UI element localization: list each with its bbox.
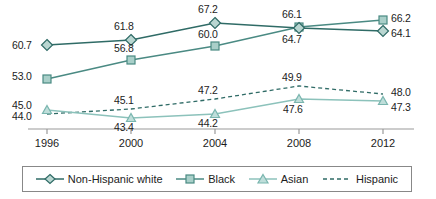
legend-dashed-line-icon [322,173,352,185]
legend-item-black[interactable]: Black [176,173,235,185]
data-label-asian-2008: 47.6 [283,103,303,115]
data-label-hispanic-2008: 49.9 [282,71,302,83]
legend-square-icon [176,173,204,185]
data-label-nhw-2012: 64.1 [391,27,411,39]
data-label-hispanic-2012: 48.0 [391,86,411,98]
legend-diamond-icon [36,173,64,185]
x-tick-label-2000: 2000 [119,137,143,149]
data-label-hispanic-1996: 44.0 [12,110,32,122]
data-label-black-2008: 64.7 [282,33,302,45]
data-label-nhw-2000: 61.8 [114,20,134,32]
x-tick-label-2008: 2008 [287,137,311,149]
legend-triangle-icon [249,173,277,185]
data-label-asian-2000: 43.4 [114,121,134,133]
data-label-black-2000: 56.8 [114,42,134,54]
line-chart: 1996 2000 2004 2008 2012 60.7 61.8 67.2 … [0,0,436,199]
data-label-hispanic-2000: 45.1 [114,94,134,106]
legend-label-black: Black [208,173,235,185]
data-label-nhw-1996: 60.7 [12,39,32,51]
legend-label-asian: Asian [281,173,309,185]
data-label-black-1996: 53.0 [12,70,32,82]
legend: Non-Hispanic white Black Asian Hispanic [22,166,412,192]
legend-label-hispanic: Hispanic [356,173,398,185]
x-tick-label-2004: 2004 [203,137,227,149]
data-label-asian-2004: 44.2 [198,117,218,129]
data-label-hispanic-2004: 47.2 [198,84,218,96]
x-tick-label-1996: 1996 [35,137,59,149]
data-label-nhw-2004: 67.2 [198,3,218,15]
data-label-asian-2012: 47.3 [391,101,411,113]
legend-label-non-hispanic-white: Non-Hispanic white [68,173,163,185]
data-label-nhw-2008: 66.1 [282,8,302,20]
data-label-black-2004: 60.0 [198,28,218,40]
legend-item-non-hispanic-white[interactable]: Non-Hispanic white [36,173,163,185]
x-tick-label-2012: 2012 [371,137,395,149]
legend-item-asian[interactable]: Asian [249,173,309,185]
data-label-black-2012: 66.2 [391,12,411,24]
legend-item-hispanic[interactable]: Hispanic [322,173,398,185]
